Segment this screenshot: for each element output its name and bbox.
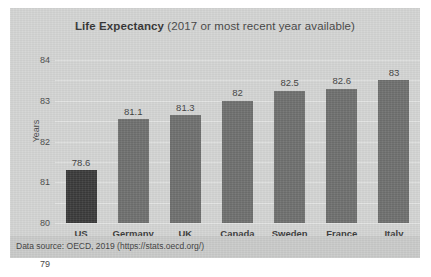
bar-sweden[interactable]: 82.5Sweden <box>274 91 305 223</box>
bar-canada[interactable]: 82Canada <box>222 101 253 223</box>
chart-title: Life Expectancy (2017 or most recent yea… <box>10 20 420 32</box>
bar-germany[interactable]: 81.1Germany <box>118 119 149 223</box>
y-axis-tick-label: 79 <box>40 259 50 268</box>
source-note: Data source: OECD, 2019 (https://stats.o… <box>16 241 204 251</box>
bar-italy[interactable]: 83Italy <box>378 80 409 223</box>
bar-rect <box>66 170 97 223</box>
bar-value-label: 81.1 <box>109 107 158 117</box>
bar-rect <box>274 91 305 223</box>
bar-france[interactable]: 82.6France <box>326 89 357 223</box>
y-axis-tick-label: 82 <box>40 137 50 146</box>
bar-value-label: 83 <box>369 68 418 78</box>
chart-panel: Life Expectancy (2017 or most recent yea… <box>10 8 420 258</box>
footer-band: Data source: OECD, 2019 (https://stats.o… <box>10 236 420 258</box>
bar-rect <box>118 119 149 223</box>
plot-area: 84838281807978777678.6US81.1Germany81.3U… <box>55 60 420 223</box>
y-axis-tick-label: 81 <box>40 178 50 187</box>
bar-rect <box>222 101 253 223</box>
bar-value-label: 82.5 <box>265 78 314 88</box>
y-axis-tick-label: 80 <box>40 219 50 228</box>
bar-rect <box>378 80 409 223</box>
y-axis-tick-label: 83 <box>40 96 50 105</box>
y-axis-tick-label: 84 <box>40 56 50 65</box>
bar-us[interactable]: 78.6US <box>66 170 97 223</box>
gridline: 76 <box>55 223 420 224</box>
bar-value-label: 81.3 <box>161 103 210 113</box>
bar-rect <box>326 89 357 223</box>
bar-value-label: 78.6 <box>57 158 106 168</box>
bar-uk[interactable]: 81.3UK <box>170 115 201 223</box>
chart-title-main: Life Expectancy <box>75 20 164 32</box>
bar-value-label: 82 <box>213 88 262 98</box>
gridline: 84 <box>55 60 420 61</box>
chart-title-subtitle: (2017 or most recent year available) <box>164 20 355 32</box>
bar-value-label: 82.6 <box>317 76 366 86</box>
bar-rect <box>170 115 201 223</box>
